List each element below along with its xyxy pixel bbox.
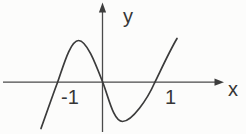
function-curve — [41, 39, 177, 129]
y-axis-label: y — [123, 5, 133, 27]
function-graph-figure: y x -1 1 — [0, 0, 246, 134]
tick-label-negative-one: -1 — [61, 86, 79, 108]
x-axis-arrowhead — [215, 79, 225, 86]
plot-svg: y x -1 1 — [0, 0, 246, 134]
y-axis-arrowhead — [99, 3, 106, 13]
tick-label-positive-one: 1 — [165, 86, 176, 108]
x-axis-label: x — [228, 78, 238, 100]
